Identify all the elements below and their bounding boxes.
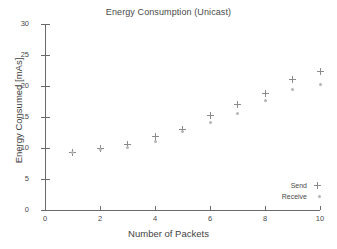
y-tick-label-10: 10 [7, 143, 29, 152]
y-tick-inner [46, 210, 50, 211]
x-tick [265, 206, 266, 210]
legend-item-send[interactable]: Send [263, 180, 323, 191]
data-point-send-6 [207, 112, 214, 119]
x-tick-label-4: 4 [144, 214, 166, 223]
chart-figure: Energy Consumption (Unicast) Energy Cons… [0, 0, 337, 249]
x-tick [45, 206, 46, 210]
legend-marker-receive [318, 195, 321, 198]
data-point-send-9 [289, 76, 296, 83]
legend-marker-send [314, 182, 321, 189]
y-tick-inner [46, 117, 50, 118]
x-tick [210, 206, 211, 210]
y-tick [41, 179, 45, 180]
data-point-receive-3 [126, 146, 129, 149]
data-point-send-10 [317, 68, 324, 75]
x-tick-label-10: 10 [309, 214, 331, 223]
x-tick [155, 206, 156, 210]
y-tick-label-20: 20 [7, 81, 29, 90]
y-tick-inner [46, 86, 50, 87]
data-point-receive-7 [236, 112, 239, 115]
x-tick [100, 206, 101, 210]
x-tick-label-6: 6 [199, 214, 221, 223]
data-point-receive-10 [319, 83, 322, 86]
y-tick-inner [46, 55, 50, 56]
x-tick [320, 206, 321, 210]
x-axis-line [45, 210, 320, 211]
y-tick-inner [46, 24, 50, 25]
y-tick-label-30: 30 [7, 19, 29, 28]
x-tick-label-0: 0 [34, 214, 56, 223]
data-point-receive-5 [181, 130, 184, 133]
y-tick [41, 86, 45, 87]
data-point-send-7 [234, 101, 241, 108]
data-point-receive-4 [154, 140, 157, 143]
y-tick-inner [46, 148, 50, 149]
chart-title: Energy Consumption (Unicast) [0, 7, 337, 17]
y-tick [41, 24, 45, 25]
y-tick [41, 210, 45, 211]
data-point-receive-8 [264, 99, 267, 102]
data-point-receive-6 [209, 121, 212, 124]
y-tick-label-15: 15 [7, 112, 29, 121]
data-point-receive-9 [291, 88, 294, 91]
y-tick-inner [46, 179, 50, 180]
chart-legend: SendReceive [263, 180, 323, 202]
y-tick [41, 55, 45, 56]
x-tick-label-8: 8 [254, 214, 276, 223]
legend-label-send: Send [291, 180, 307, 191]
y-tick-label-25: 25 [7, 50, 29, 59]
legend-item-receive[interactable]: Receive [263, 191, 323, 202]
y-tick-label-0: 0 [7, 205, 29, 214]
data-point-send-8 [262, 90, 269, 97]
y-tick [41, 148, 45, 149]
y-tick [41, 117, 45, 118]
legend-label-receive: Receive [282, 191, 307, 202]
x-tick-label-2: 2 [89, 214, 111, 223]
y-tick-label-5: 5 [7, 174, 29, 183]
x-axis-label: Number of Packets [0, 228, 337, 239]
